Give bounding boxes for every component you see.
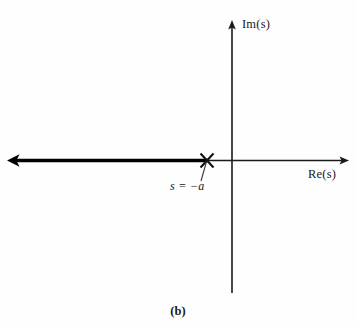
imaginary-axis-group <box>228 20 236 293</box>
s-plane-plot <box>0 0 356 326</box>
figure-caption: (b) <box>0 304 356 319</box>
pole-annotation-label: s = −a <box>170 179 205 194</box>
root-locus-branch <box>7 154 208 167</box>
real-axis-label: Re(s) <box>308 167 336 182</box>
s-plane-figure: Im(s) Re(s) s = −a (b) <box>0 0 356 326</box>
imaginary-axis-label: Im(s) <box>242 17 270 32</box>
